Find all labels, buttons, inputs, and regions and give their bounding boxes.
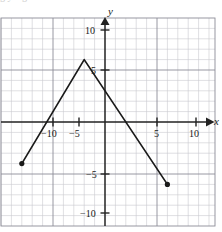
- x-tick-label--5: −5: [69, 128, 80, 139]
- graph-figure: g y e g: [0, 0, 222, 232]
- x-tick-label-10: 10: [189, 128, 199, 139]
- y-tick-label--5: −5: [86, 169, 97, 180]
- coordinate-plane: −10 −5 5 10 10 5 −5 −10 x y: [0, 0, 222, 232]
- axis-lines: [1, 24, 207, 226]
- x-tick-label--10: −10: [41, 128, 57, 139]
- data-point-endpoint-right: [165, 182, 170, 187]
- x-tick-label-5: 5: [154, 128, 159, 139]
- x-axis-label: x: [213, 115, 219, 127]
- y-tick-label--10: −10: [80, 208, 96, 219]
- y-tick-label-10: 10: [85, 25, 95, 36]
- data-point-endpoint-left: [19, 161, 24, 166]
- y-axis-label: y: [107, 5, 113, 17]
